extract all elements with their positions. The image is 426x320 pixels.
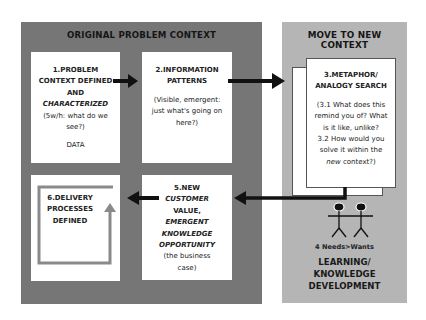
- box-subtext: new context?): [307, 157, 395, 168]
- box-subtext-rest: context?): [341, 158, 376, 166]
- title-line: MOVE TO NEW: [308, 30, 382, 40]
- box-title: ANALOGY SEARCH: [307, 81, 395, 92]
- needs-wants-label: 4 Needs>Wants: [282, 243, 407, 251]
- box-subtext: remind you of? What: [307, 111, 395, 122]
- box-subtext: (Visible, emergent:: [142, 95, 232, 106]
- box-title-line: PROCESSES: [47, 205, 93, 213]
- box-subtext: see?): [31, 122, 120, 133]
- box-subtext: here?): [142, 118, 232, 129]
- step-6-delivery-processes-box: 6.DELIVERY PROCESSES DEFINED: [31, 175, 120, 281]
- title-line: CONTEXT: [321, 40, 369, 50]
- panel-title: ORIGINAL PROBLEM CONTEXT: [21, 31, 262, 41]
- box-title: PATTERNS: [142, 76, 232, 87]
- label-line: DEVELOPMENT: [309, 281, 381, 291]
- label-line: LEARNING/: [318, 257, 370, 267]
- step-3-metaphor-analogy-box: 3.METAPHOR/ ANALOGY SEARCH (3.1 What doe…: [306, 58, 396, 188]
- box-title: 1.PROBLEM: [31, 65, 120, 76]
- learning-knowledge-development-label: LEARNING/ KNOWLEDGE DEVELOPMENT: [282, 256, 407, 293]
- box-subtext: (3.1 What does this: [307, 100, 395, 111]
- panel-title: MOVE TO NEW CONTEXT: [282, 30, 407, 50]
- box-title: VALUE,: [142, 206, 232, 217]
- box-title: CHARACTERIZED: [31, 99, 120, 110]
- box-title: CUSTOMER: [142, 194, 232, 205]
- box-subtext: (5w/h: what do we: [31, 111, 120, 122]
- box-footer: DATA: [31, 140, 120, 151]
- box-subtext: case): [142, 263, 232, 274]
- box-subtext: just what's going on: [142, 106, 232, 117]
- box-title: 2.INFORMATION: [142, 65, 232, 76]
- box-italic-title: OPPORTUNITY: [142, 240, 232, 251]
- box-subtext: 3.2 How would you: [307, 134, 395, 145]
- box-italic-title: KNOWLEDGE: [142, 229, 232, 240]
- step-2-information-patterns-box: 2.INFORMATION PATTERNS (Visible, emergen…: [142, 52, 232, 163]
- box-title: 3.METAPHOR/: [307, 70, 395, 81]
- box-title: 5.NEW: [142, 183, 232, 194]
- box-subtext: solve it within the: [307, 145, 395, 156]
- box-subtext: is it like, unlike?: [307, 123, 395, 134]
- box-title: CONTEXT DEFINED: [31, 76, 120, 87]
- box-title: 6.DELIVERY PROCESSES DEFINED: [39, 193, 101, 227]
- step-1-problem-context-box: 1.PROBLEM CONTEXT DEFINED AND CHARACTERI…: [31, 52, 120, 163]
- box-italic-title: EMERGENT: [142, 217, 232, 228]
- box-title-line: 6.DELIVERY: [47, 194, 92, 202]
- step-5-new-customer-value-box: 5.NEW CUSTOMER VALUE, EMERGENT KNOWLEDGE…: [142, 175, 232, 280]
- italic-word: new: [326, 158, 340, 166]
- label-line: KNOWLEDGE: [313, 269, 375, 279]
- box-title-line: DEFINED: [53, 217, 87, 225]
- box-subtext: (the business: [142, 251, 232, 262]
- box-title: AND: [31, 88, 120, 99]
